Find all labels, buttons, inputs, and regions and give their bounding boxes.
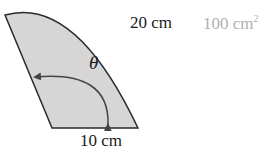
base-label: 10 cm	[80, 131, 122, 151]
area-label: 100 cm2	[203, 13, 259, 34]
area-value: 100 cm	[203, 14, 254, 33]
outer-arc-label: 20 cm	[130, 13, 172, 33]
angle-label: θ	[89, 52, 98, 74]
shaded-sector	[5, 12, 138, 128]
area-exponent: 2	[254, 13, 259, 24]
